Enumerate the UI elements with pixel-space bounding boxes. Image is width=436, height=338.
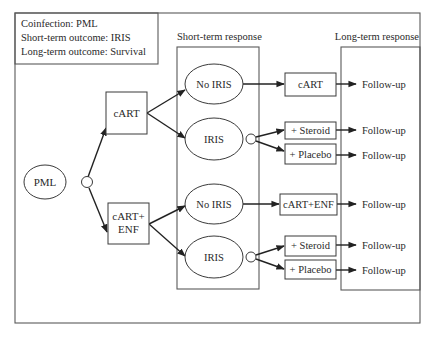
treatment-node-cart: cART [106,92,147,134]
edge-iris-to-placebo-2 [256,259,284,269]
info-line-long-term: Long-term outcome: Survival [21,46,146,57]
edge-iris-to-placebo [256,141,284,151]
edge-iris-to-steroid-2 [256,246,284,255]
outcome-followup: Follow-up [362,240,406,251]
root-label: PML [34,176,57,188]
iris-label: IRIS [204,134,224,145]
secondary-cart-label: cART [298,79,324,90]
info-box: Coinfection: PML Short-term outcome: IRI… [15,13,158,64]
edge-chance-to-cart-enf [89,188,107,232]
outcome-followup: Follow-up [362,150,406,161]
short-term-node-no-iris-1: No IRIS [185,64,243,104]
treatment-cart-enf-label-line2: ENF [118,223,139,235]
iris-label: IRIS [204,252,224,263]
short-term-response-label: Short-term response [177,31,262,42]
chance-node-root [82,177,93,188]
edge-cart-to-iris [147,113,185,138]
short-term-node-iris-2: IRIS [185,236,243,278]
treatment-cart-enf-label-line1: cART+ [112,210,144,222]
edge-cart-enf-to-no-iris [149,206,185,224]
secondary-node-placebo-2: + Placebo [285,260,336,279]
secondary-node-steroid-1: + Steroid [285,122,336,139]
secondary-node-steroid-2: + Steroid [285,236,336,256]
short-term-node-no-iris-2: No IRIS [185,184,243,224]
outcome-followup: Follow-up [362,79,406,90]
no-iris-label: No IRIS [196,199,231,210]
outcome-followup: Follow-up [362,265,406,276]
secondary-steroid-label: + Steroid [291,125,331,136]
treatment-cart-label: cART [113,107,140,119]
secondary-steroid-label: + Steroid [291,240,331,251]
outcome-followup: Follow-up [362,125,406,136]
short-term-node-iris-1: IRIS [185,118,243,160]
edge-chance-to-cart [88,128,106,177]
outcome-followup: Follow-up [362,199,406,210]
info-line-short-term: Short-term outcome: IRIS [21,32,131,43]
long-term-response-label: Long-term response [335,31,420,42]
chance-node-iris-1 [246,134,256,144]
chance-node-iris-2 [246,252,256,262]
edge-iris-to-steroid [256,130,284,137]
no-iris-label: No IRIS [196,79,231,90]
info-line-coinfection: Coinfection: PML [21,18,98,29]
edge-cart-enf-to-iris [149,224,185,256]
secondary-placebo-label: + Placebo [290,264,332,275]
secondary-node-placebo-1: + Placebo [285,144,336,164]
edge-cart-to-no-iris [147,90,185,113]
secondary-node-cart: cART [285,73,336,96]
treatment-node-cart-enf: cART+ ENF [108,203,149,244]
secondary-node-cart-enf: cART+ENF [280,194,337,215]
root-node-pml: PML [24,165,66,199]
decision-tree-diagram: Coinfection: PML Short-term outcome: IRI… [0,0,436,338]
secondary-cart-enf-label: cART+ENF [283,199,334,210]
secondary-placebo-label: + Placebo [290,149,332,160]
